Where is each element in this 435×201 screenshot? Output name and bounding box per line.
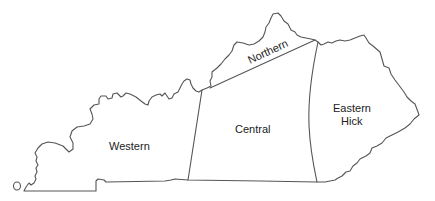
region-label-eastern-line2: Hick bbox=[341, 115, 363, 127]
region-label-western: Western bbox=[109, 140, 150, 152]
regional-map: Western Central Northern Eastern Hick bbox=[0, 0, 435, 201]
region-label-eastern-line1: Eastern bbox=[333, 102, 371, 114]
western-loop bbox=[14, 182, 21, 190]
region-label-central: Central bbox=[235, 123, 270, 135]
